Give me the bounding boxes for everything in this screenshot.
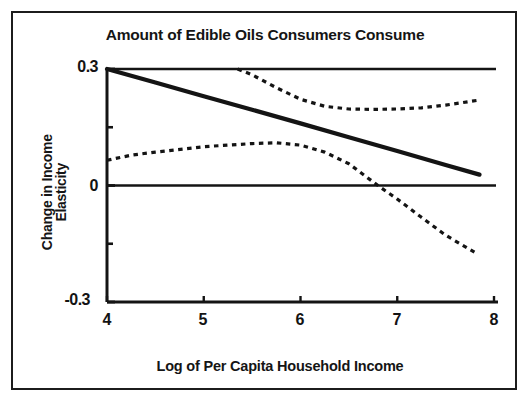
series-estimate-line [107,69,479,175]
data-series-group [107,69,479,252]
plot-area [0,0,530,403]
axes-group [107,69,498,302]
chart-figure: Amount of Edible Oils Consumers Consume … [0,0,530,403]
series-upper-band-line [238,69,480,109]
